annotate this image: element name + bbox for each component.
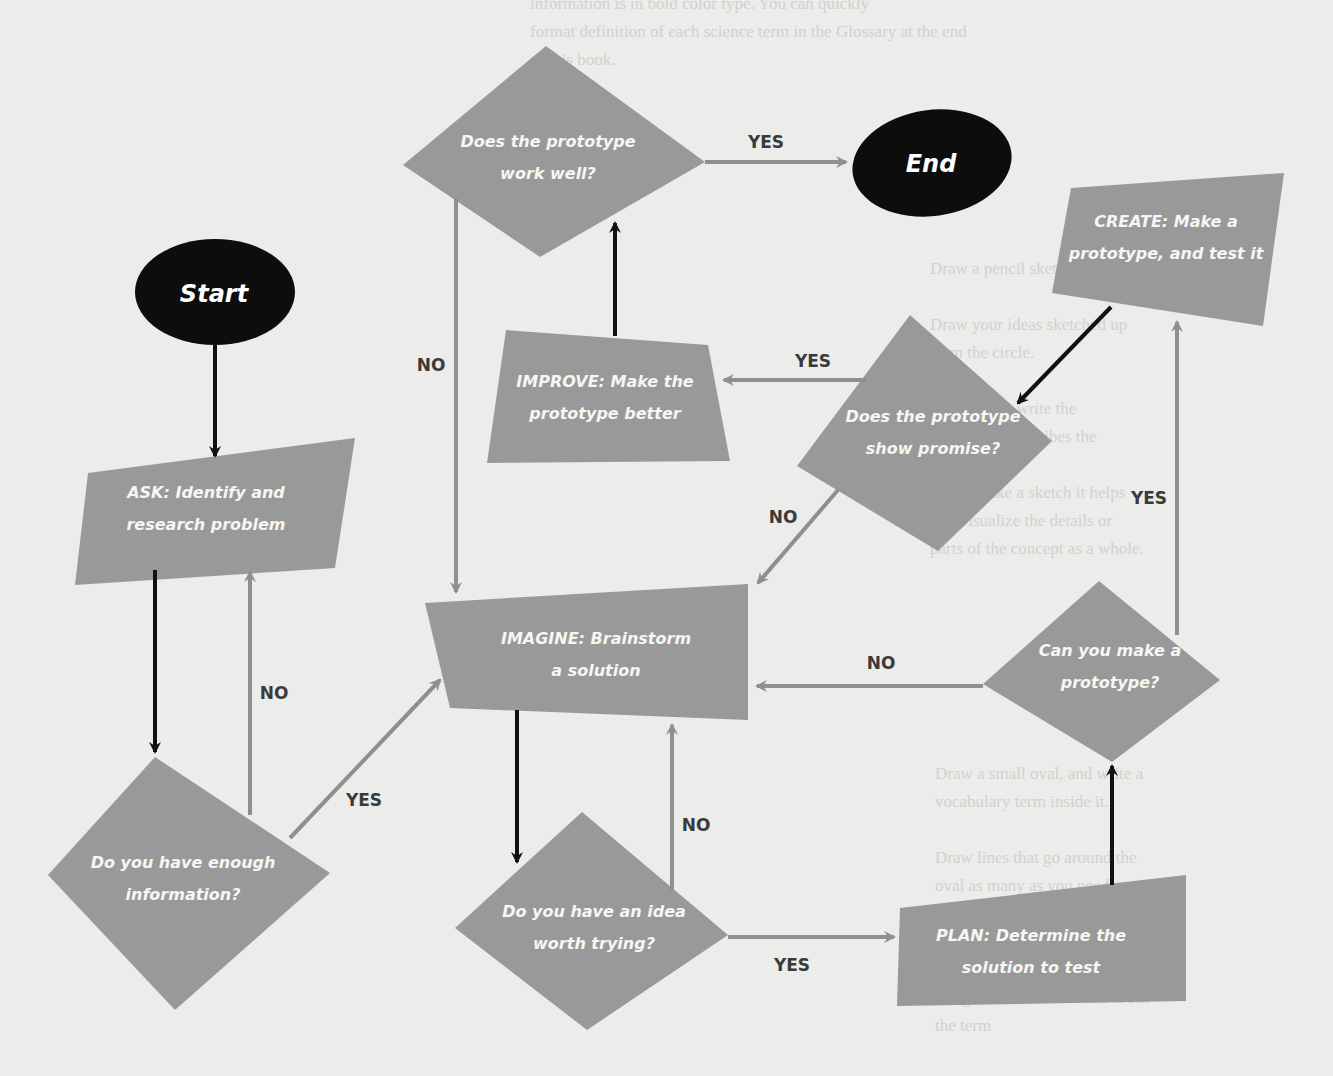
edge-label-promise-no: NO <box>769 507 798 527</box>
edge-label-workwell-no: NO <box>417 355 446 375</box>
arrow-enoughinfo-yes-imagine <box>290 680 440 838</box>
arrow-promise-no-imagine <box>758 490 838 583</box>
arrow-create-promise <box>1018 307 1111 403</box>
show-promise-label: Does the prototype show promise? <box>845 401 1020 465</box>
edge-label-idea-yes: YES <box>774 955 810 975</box>
edge-label-enoughinfo-no: NO <box>260 683 289 703</box>
edge-label-canmake-yes: YES <box>1131 488 1167 508</box>
edge-label-promise-yes: YES <box>795 351 831 371</box>
edge-label-canmake-no: NO <box>867 653 896 673</box>
end-label: End <box>906 150 957 178</box>
ask-label: ASK: Identify and research problem <box>126 477 285 541</box>
edge-label-workwell-yes: YES <box>748 132 784 152</box>
edge-label-enoughinfo-yes: YES <box>346 790 382 810</box>
imagine-label: IMAGINE: Brainstorm a solution <box>501 623 691 687</box>
improve-label: IMPROVE: Make the prototype better <box>516 366 693 430</box>
start-label: Start <box>180 280 248 308</box>
can-make-label: Can you make a prototype? <box>1039 635 1182 699</box>
idea-worth-label: Do you have an idea worth trying? <box>502 896 686 960</box>
plan-label: PLAN: Determine the solution to test <box>936 920 1126 984</box>
create-label: CREATE: Make a prototype, and test it <box>1069 206 1264 270</box>
edge-label-idea-no: NO <box>682 815 711 835</box>
work-well-label: Does the prototype work well? <box>460 126 635 190</box>
enough-info-label: Do you have enough information? <box>91 847 276 911</box>
